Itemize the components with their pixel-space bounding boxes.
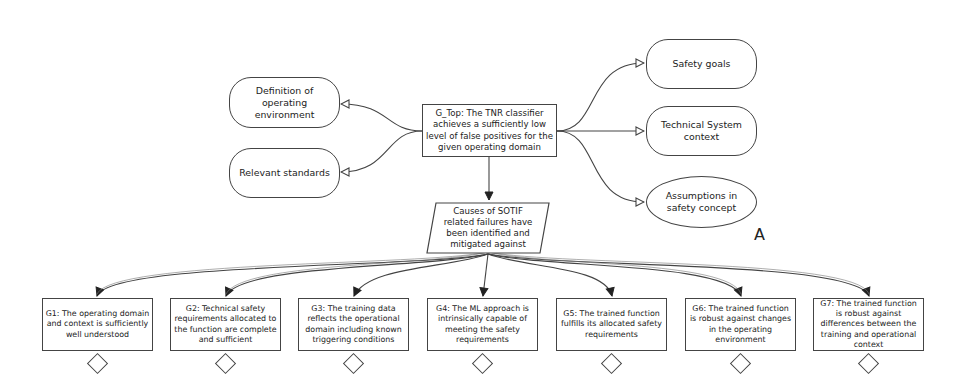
subgoal-g2-label: G2: Technical safety requirements alloca… [173, 304, 278, 345]
goal-top[interactable]: G_Top: The TNR classifier achieves a suf… [422, 104, 557, 157]
strategy-sotif-causes[interactable]: Causes of SOTIF related failures have be… [426, 202, 550, 254]
edge-gtop-assumptions [557, 131, 644, 202]
edge-strategy-g2 [226, 254, 488, 296]
subgoal-g1[interactable]: G1: The operating domain and context is … [42, 298, 153, 351]
assumption-safety-concept-label: Assumptions in safety concept [655, 190, 748, 214]
edge-strategy-g7 [488, 254, 869, 296]
subgoal-g6[interactable]: G6: The trained function is robust again… [685, 298, 796, 351]
context-safety-goals-label: Safety goals [673, 58, 731, 70]
strategy-sotif-causes-label: Causes of SOTIF related failures have be… [426, 206, 550, 250]
subgoal-g5[interactable]: G5: The trained function fulfills its al… [556, 298, 667, 351]
subgoal-g7-label: G7: The trained function is robust again… [816, 299, 921, 350]
context-relevant-standards-label: Relevant standards [239, 167, 330, 179]
context-technical-system-label: Technical System context [653, 119, 750, 143]
goal-top-label: G_Top: The TNR classifier achieves a suf… [426, 108, 553, 153]
context-operating-environment-label: Definition of operating environment [236, 85, 333, 121]
edge-gtop-standards [341, 131, 422, 172]
subgoal-g3-label: G3: The training data reflects the opera… [301, 304, 406, 345]
subgoal-g2[interactable]: G2: Technical safety requirements alloca… [170, 298, 281, 351]
subgoal-g3[interactable]: G3: The training data reflects the opera… [298, 298, 409, 351]
edge-gtop-safetygoals [557, 63, 644, 131]
assumption-safety-concept[interactable]: Assumptions in safety concept [646, 176, 757, 228]
context-operating-environment[interactable]: Definition of operating environment [229, 77, 340, 128]
subgoal-g5-label: G5: The trained function fulfills its al… [559, 309, 664, 340]
subgoal-g4[interactable]: G4: The ML approach is intrinsically cap… [427, 298, 538, 351]
context-relevant-standards[interactable]: Relevant standards [229, 148, 340, 198]
context-technical-system[interactable]: Technical System context [646, 106, 757, 156]
subgoal-g1-label: G1: The operating domain and context is … [45, 309, 150, 340]
subgoal-g4-label: G4: The ML approach is intrinsically cap… [430, 304, 535, 345]
subgoal-g6-label: G6: The trained function is robust again… [688, 304, 793, 345]
context-safety-goals[interactable]: Safety goals [646, 39, 757, 89]
subgoal-g7[interactable]: G7: The trained function is robust again… [813, 298, 924, 351]
edge-strategy-g4 [483, 254, 488, 296]
assumption-marker-a: A [754, 225, 765, 244]
edge-gtop-definition [341, 104, 422, 131]
edge-strategy-g6 [488, 254, 741, 296]
